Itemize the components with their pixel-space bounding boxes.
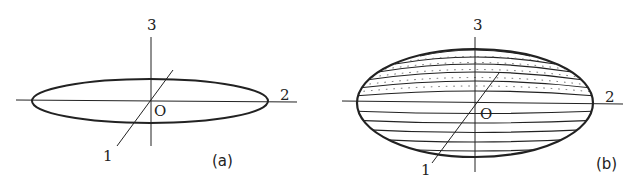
panel-a-axis-2-label: 2	[280, 86, 290, 104]
panel-a-caption: (a)	[212, 152, 233, 170]
panel-b-axis-3-label: 3	[473, 16, 483, 34]
panel-b-origin-label: O	[480, 105, 492, 123]
diagram-canvas: 3 2 O 1 (a)	[0, 0, 639, 191]
axis-2-line	[342, 101, 623, 104]
panel-b-caption: (b)	[596, 155, 617, 173]
panel-a-origin-label: O	[154, 102, 166, 120]
panel-b-axis-1-label: 1	[421, 161, 431, 179]
panel-a	[16, 37, 297, 146]
panel-b-axis-2-label: 2	[605, 88, 615, 106]
panel-a-axis-1-label: 1	[103, 147, 113, 165]
panel-a-axis-3-label: 3	[147, 16, 157, 34]
